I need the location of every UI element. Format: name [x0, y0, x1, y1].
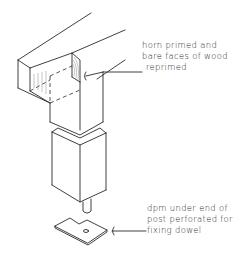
horn-annotation-line-3: reprimed [146, 62, 228, 73]
dowel [83, 199, 91, 213]
drawing-canvas: horn primed and bare faces of wood repri… [0, 0, 252, 257]
horn-annotation: horn primed and bare faces of wood repri… [142, 40, 228, 73]
horn-annotation-line-2: bare faces of wood [142, 51, 228, 62]
post-lower [52, 128, 106, 202]
beam [18, 13, 125, 103]
horn-annotation-line-1: horn primed and [142, 40, 228, 51]
dpm-annotation: dpm under end of post perforated for fix… [147, 203, 233, 236]
dpm-plate [55, 218, 146, 245]
horn [30, 53, 86, 103]
post-upper [50, 72, 142, 135]
dpm-annotation-line-2: post perforated for [147, 214, 233, 225]
dpm-annotation-line-1: dpm under end of [147, 203, 233, 214]
dpm-annotation-line-3: fixing dowel [147, 225, 233, 236]
